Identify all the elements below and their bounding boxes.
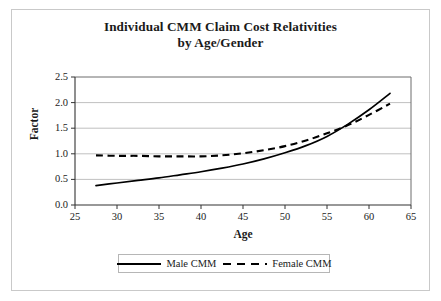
legend-swatch-solid-icon — [116, 259, 162, 269]
x-tick-label-1: 30 — [102, 211, 132, 222]
x-tick-label-7: 60 — [354, 211, 384, 222]
x-tick-label-5: 50 — [270, 211, 300, 222]
y-tick-label-5: 2.5 — [38, 71, 68, 82]
x-tick-label-0: 25 — [60, 211, 90, 222]
y-tick-label-0: 0.0 — [38, 199, 68, 210]
x-tick-label-2: 35 — [144, 211, 174, 222]
chart-legend: Male CMM Female CMM — [118, 254, 330, 273]
legend-label-male-cmm: Male CMM — [166, 258, 216, 269]
y-tick-marks — [71, 77, 75, 205]
legend-swatch-dashed-icon — [222, 259, 268, 269]
x-tick-label-6: 55 — [312, 211, 342, 222]
chart-figure: Individual CMM Claim Cost Relativities b… — [0, 0, 441, 301]
legend-item-female-cmm: Female CMM — [222, 258, 331, 269]
y-tick-label-2: 1.0 — [38, 148, 68, 159]
y-tick-label-1: 0.5 — [38, 173, 68, 184]
y-axis-title: Factor — [28, 84, 40, 164]
x-tick-label-4: 45 — [228, 211, 258, 222]
x-tick-label-8: 65 — [396, 211, 426, 222]
x-axis-title: Age — [75, 228, 411, 240]
y-tick-label-4: 2.0 — [38, 97, 68, 108]
legend-item-male-cmm: Male CMM — [116, 258, 216, 269]
legend-label-female-cmm: Female CMM — [272, 258, 331, 269]
x-tick-marks — [75, 205, 411, 209]
y-tick-label-3: 1.5 — [38, 122, 68, 133]
x-tick-label-3: 40 — [186, 211, 216, 222]
plot-background — [75, 77, 411, 205]
